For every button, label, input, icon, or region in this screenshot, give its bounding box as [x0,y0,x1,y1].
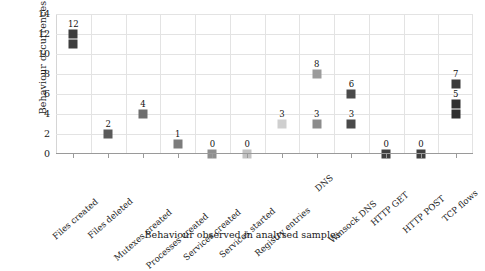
vertical-gridline [299,14,300,154]
x-tick-mark [247,154,248,158]
data-point-marker [104,130,113,139]
vertical-gridline [195,14,196,154]
vertical-gridline [230,14,231,154]
y-tick-label: 10 [22,49,50,59]
x-tick-mark [178,154,179,158]
y-axis-tick-labels: 02468101214 [22,14,50,154]
vertical-gridline [265,14,266,154]
x-category-label: HTTP GET [369,191,410,228]
data-point-label: 0 [418,140,423,149]
data-point-label: 3 [314,110,319,119]
data-point-label: 1 [175,130,180,139]
data-point-marker [69,40,78,49]
data-point-label: 0 [383,140,388,149]
data-point-label: 0 [210,140,215,149]
x-tick-mark [351,154,352,158]
x-tick-mark [212,154,213,158]
vertical-gridline [334,14,335,154]
data-point-marker [312,120,321,129]
x-category-label: TCP flows [440,189,478,224]
data-point-marker [277,120,286,129]
data-point-label: 6 [349,80,354,89]
data-point-marker [69,30,78,39]
data-point-label: 8 [314,60,319,69]
y-tick-label: 2 [22,129,50,139]
x-tick-mark [108,154,109,158]
vertical-gridline [438,14,439,154]
data-point-marker [312,70,321,79]
x-category-label: DNS [313,173,334,193]
data-point-marker [138,110,147,119]
y-tick-label: 4 [22,109,50,119]
x-tick-mark [386,154,387,158]
vertical-gridline [126,14,127,154]
vertical-gridline [369,14,370,154]
plot-area: 1224100383630075 [56,14,473,154]
y-tick-label: 12 [22,29,50,39]
data-point-marker [451,110,460,119]
vertical-gridline [91,14,92,154]
y-tick-label: 8 [22,69,50,79]
x-axis-category-labels: Files createdFiles deletedMutexes create… [56,160,473,222]
x-tick-mark [456,154,457,158]
data-point-marker [347,120,356,129]
data-point-label: 2 [105,120,110,129]
x-tick-mark [282,154,283,158]
data-point-label: 7 [453,70,458,79]
data-point-marker [451,100,460,109]
x-axis-title: Behaviour observed in analysed samples [0,229,485,240]
x-tick-mark [73,154,74,158]
vertical-gridline [404,14,405,154]
x-tick-mark [143,154,144,158]
data-point-label: 3 [349,110,354,119]
x-tick-mark [317,154,318,158]
y-tick-label: 0 [22,149,50,159]
data-point-label: 0 [244,140,249,149]
data-point-label: 4 [140,100,145,109]
y-tick-label: 6 [22,89,50,99]
x-tick-mark [421,154,422,158]
plot-border-left [56,14,57,154]
data-point-label: 3 [279,110,284,119]
data-point-marker [347,90,356,99]
vertical-gridline [160,14,161,154]
data-point-marker [173,140,182,149]
data-point-marker [451,80,460,89]
plot-border-right [472,14,473,154]
data-point-label: 5 [453,90,458,99]
y-tick-label: 14 [22,9,50,19]
data-point-label: 12 [68,20,79,29]
